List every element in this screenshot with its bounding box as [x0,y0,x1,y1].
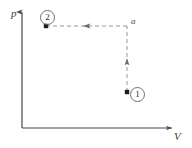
state-point-group [44,24,129,94]
pressure-axis-label: p [11,8,17,19]
corner-state-a-label: a [131,17,136,26]
pv-diagram-figure: p V a 1 2 [0,0,192,148]
state-point-1-dot [125,90,129,94]
state-point-1-label: 1 [130,87,145,102]
process-arrow-up-icon [125,58,130,65]
pv-diagram-canvas [0,0,192,148]
process-path-group [46,24,129,92]
axis-group [22,12,172,128]
volume-axis-label: V [174,131,181,142]
state-point-2-label: 2 [40,10,55,25]
